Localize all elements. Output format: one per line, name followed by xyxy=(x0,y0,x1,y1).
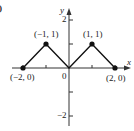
point-1-1 xyxy=(89,41,94,46)
point-m2-0 xyxy=(20,65,25,70)
point-label-1-1: (1, 1) xyxy=(83,30,103,39)
point-label-m2-0: (−2, 0) xyxy=(10,73,35,82)
y-tick-label-2: 2 xyxy=(62,15,67,24)
x-axis-label: x xyxy=(127,58,131,67)
y-tick-label-m2: −2 xyxy=(57,111,67,120)
chart-canvas xyxy=(0,0,134,131)
y-axis-arrow-icon xyxy=(67,8,72,15)
point-m1-1 xyxy=(43,41,48,46)
panel-marker: ) xyxy=(0,4,2,13)
point-2-0 xyxy=(112,65,117,70)
point-label-2-0: (2, 0) xyxy=(106,74,126,83)
point-label-m1-1: (−1, 1) xyxy=(34,30,59,39)
origin-label: 0 xyxy=(62,72,67,81)
